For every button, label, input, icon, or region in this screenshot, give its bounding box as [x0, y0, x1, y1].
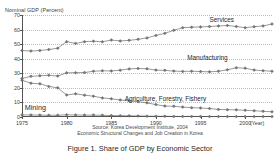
- data-point-marker: [262, 24, 265, 27]
- data-point-marker: [119, 114, 122, 117]
- plot-area: 010203040506070 197519801985199019952000…: [22, 15, 272, 117]
- source-note: Source: Korea Development Institute, 200…: [0, 124, 280, 137]
- data-point-marker: [244, 109, 247, 112]
- data-point-marker: [208, 115, 211, 118]
- data-point-marker: [83, 114, 86, 117]
- data-point-marker: [21, 49, 24, 52]
- data-point-marker: [190, 26, 193, 29]
- data-point-marker: [92, 95, 95, 98]
- data-point-marker: [29, 113, 32, 116]
- data-point-marker: [271, 115, 274, 118]
- data-point-marker: [47, 48, 50, 51]
- data-point-marker: [83, 94, 86, 97]
- y-tick-label: 40: [0, 56, 20, 62]
- data-point-marker: [92, 70, 95, 73]
- data-point-marker: [253, 115, 256, 118]
- data-point-marker: [181, 70, 184, 73]
- data-point-marker: [217, 115, 220, 118]
- y-tick-label: 50: [0, 41, 20, 47]
- data-point-marker: [137, 38, 140, 41]
- data-point-marker: [128, 114, 131, 117]
- data-point-marker: [190, 70, 193, 73]
- data-point-marker: [235, 115, 238, 118]
- y-tick-label: 10: [0, 99, 20, 105]
- data-point-marker: [110, 114, 113, 117]
- data-point-marker: [92, 40, 95, 43]
- figure-share-of-gdp: Nominal GDP (Percent) 010203040506070 19…: [0, 0, 280, 162]
- data-point-marker: [181, 115, 184, 118]
- data-point-marker: [262, 69, 265, 72]
- data-point-marker: [29, 49, 32, 52]
- data-point-marker: [235, 108, 238, 111]
- data-point-marker: [235, 66, 238, 69]
- data-point-marker: [226, 68, 229, 71]
- y-tick-label: 20: [0, 85, 20, 91]
- data-point-marker: [110, 69, 113, 72]
- data-point-marker: [163, 69, 166, 72]
- data-point-marker: [163, 115, 166, 118]
- data-point-marker: [21, 113, 24, 116]
- data-point-marker: [92, 114, 95, 117]
- data-point-marker: [56, 114, 59, 117]
- data-point-marker: [146, 67, 149, 70]
- data-point-marker: [172, 29, 175, 32]
- data-point-marker: [137, 114, 140, 117]
- data-point-marker: [235, 25, 238, 28]
- data-point-marker: [83, 71, 86, 74]
- data-point-marker: [65, 71, 68, 74]
- data-point-marker: [38, 49, 41, 52]
- data-point-marker: [181, 106, 184, 109]
- data-point-marker: [208, 107, 211, 110]
- data-point-marker: [253, 69, 256, 72]
- data-point-marker: [47, 114, 50, 117]
- data-point-marker: [217, 108, 220, 111]
- data-point-marker: [271, 23, 274, 26]
- data-point-marker: [47, 85, 50, 88]
- data-point-marker: [65, 113, 68, 116]
- data-point-marker: [110, 39, 113, 42]
- data-point-marker: [244, 26, 247, 29]
- series-label-mining: Mining: [24, 103, 47, 112]
- data-point-marker: [137, 67, 140, 70]
- y-tick-label: 60: [0, 27, 20, 33]
- data-point-marker: [119, 69, 122, 72]
- data-point-marker: [190, 115, 193, 118]
- data-point-marker: [253, 25, 256, 28]
- data-point-marker: [181, 26, 184, 29]
- y-tick-label: 70: [0, 12, 20, 18]
- data-point-marker: [74, 113, 77, 116]
- data-point-marker: [56, 75, 59, 78]
- data-point-marker: [199, 115, 202, 118]
- data-point-marker: [190, 106, 193, 109]
- data-point-marker: [128, 39, 131, 42]
- data-point-marker: [199, 70, 202, 73]
- data-point-marker: [154, 69, 157, 72]
- source-line-2: Economic Structural Changes and Job Crea…: [0, 130, 280, 136]
- data-point-marker: [154, 103, 157, 106]
- data-point-marker: [172, 105, 175, 108]
- data-point-marker: [262, 115, 265, 118]
- data-point-marker: [38, 82, 41, 85]
- series-label-manufacturing: Manufacturing: [187, 54, 228, 61]
- data-point-marker: [163, 32, 166, 35]
- series-label-agriculture: Agriculture, Forestry, Fishery: [125, 95, 207, 102]
- data-point-marker: [154, 115, 157, 118]
- data-point-marker: [29, 75, 32, 78]
- data-point-marker: [199, 25, 202, 28]
- data-point-marker: [101, 96, 104, 99]
- data-point-marker: [244, 115, 247, 118]
- data-point-marker: [154, 34, 157, 37]
- data-point-marker: [146, 115, 149, 118]
- data-point-marker: [38, 74, 41, 77]
- data-point-marker: [74, 42, 77, 45]
- data-point-marker: [101, 114, 104, 117]
- data-point-marker: [119, 39, 122, 42]
- data-point-marker: [163, 105, 166, 108]
- data-point-marker: [83, 40, 86, 43]
- data-point-marker: [253, 109, 256, 112]
- data-point-marker: [128, 67, 131, 70]
- data-point-marker: [226, 115, 229, 118]
- data-point-marker: [271, 70, 274, 73]
- data-point-marker: [47, 74, 50, 77]
- data-point-marker: [38, 114, 41, 117]
